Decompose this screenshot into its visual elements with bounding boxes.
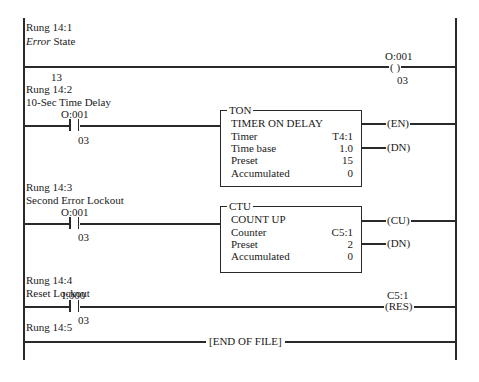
contact-bit: 03 [78,231,89,243]
no-contact[interactable] [69,300,79,312]
cross-reference: 13 [51,71,62,83]
rung-label: Rung 14:2 [26,83,72,95]
dn-wire [361,243,387,245]
rung-label: Rung 14:4 [26,274,72,286]
field-preset: Preset15 [231,154,353,166]
output-coil[interactable]: ( ) [389,61,401,73]
rung-description: Second Error Lockout [26,194,124,206]
en-output[interactable]: (EN) [386,117,410,129]
block-title: COUNT UP [231,213,353,225]
rung-label: Rung 14:5 [26,321,72,333]
contact-bit: 03 [78,314,89,326]
rung-wire-left [24,306,69,308]
rung-wire-left [24,223,69,225]
ton-block[interactable]: TON TIMER ON DELAY TimerT4:1 Time base1.… [220,110,362,187]
field-timer: TimerT4:1 [231,130,353,142]
dn-wire [361,147,387,149]
rung-wire-mid [80,125,221,127]
no-contact[interactable] [69,217,79,229]
dn-output[interactable]: (DN) [386,237,411,249]
field-accumulated: Accumulated0 [231,167,353,179]
field-accumulated: Accumulated0 [231,250,353,262]
reset-coil[interactable]: (RES) [384,300,414,312]
rung-wire-left [24,125,69,127]
contact-bit: 03 [78,134,89,146]
coil-bit: 03 [397,74,408,86]
ctu-block[interactable]: CTU COUNT UP CounterC5:1 Preset2 Accumul… [220,206,362,273]
no-contact[interactable] [69,119,79,131]
rung-label: Rung 14:3 [26,181,72,193]
end-of-file-marker: [END OF FILE] [206,335,285,347]
field-counter: CounterC5:1 [231,226,353,238]
rung-wire-mid [80,223,221,225]
rung-label: Rung 14:1 [26,21,72,33]
block-type: TON [227,104,253,116]
field-preset: Preset2 [231,238,353,250]
left-power-rail [23,18,25,360]
rung-description: 10-Sec Time Delay [26,96,111,108]
cu-output[interactable]: (CU) [386,214,411,226]
right-power-rail [455,18,457,360]
field-time-base: Time base1.0 [231,142,353,154]
block-title: TIMER ON DELAY [231,117,353,129]
dn-output[interactable]: (DN) [386,141,411,153]
block-type: CTU [227,200,253,212]
rung-description: Error State [26,35,75,47]
